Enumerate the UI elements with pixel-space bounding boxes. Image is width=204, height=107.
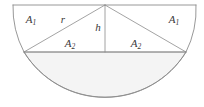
label-area-two-left: A2: [64, 37, 76, 51]
label-area-two-right-sub: 2: [137, 42, 141, 51]
label-area-one-left: A1: [25, 13, 36, 27]
label-area-one-right-sub: 1: [175, 18, 179, 27]
arc-right-upper: [186, 5, 196, 52]
figure-canvas: A1 A1 A2 A2 r h: [0, 0, 204, 107]
label-area-one-right: A1: [168, 13, 179, 27]
label-radius: r: [61, 13, 66, 25]
shaded-segment-region: [24, 52, 186, 97]
geometry-figure: A1 A1 A2 A2 r h: [0, 0, 204, 107]
label-area-two-left-sub: 2: [71, 42, 75, 51]
label-height: h: [95, 21, 101, 33]
arc-left-upper: [13, 5, 24, 52]
label-area-two-right: A2: [130, 37, 142, 51]
label-area-one-left-sub: 1: [32, 18, 36, 27]
